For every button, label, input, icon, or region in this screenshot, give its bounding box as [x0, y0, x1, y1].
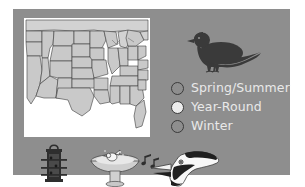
singing-bird-head-icon: [141, 147, 221, 187]
legend-item-year-round[interactable]: Year-Round: [171, 98, 299, 116]
legend-label-winter: Winter: [191, 120, 233, 133]
bird-feeder-icon: [39, 140, 69, 185]
pigeon-silhouette-icon: [181, 21, 265, 77]
legend-swatch-year-round: [171, 101, 184, 114]
legend-item-spring-summer[interactable]: Spring/Summer: [171, 79, 299, 97]
birdbath-icon: [89, 147, 141, 187]
birdbath-illustration: [89, 147, 141, 187]
legend-swatch-spring-summer: [171, 82, 184, 95]
range-map-card[interactable]: [24, 18, 150, 137]
legend-label-year-round: Year-Round: [191, 101, 262, 114]
legend-label-spring-summer: Spring/Summer: [191, 82, 290, 95]
poster-panel: Spring/Summer Year-Round Winter: [13, 9, 290, 175]
range-map-svg: [24, 18, 150, 137]
legend-swatch-winter: [171, 120, 184, 133]
pigeon-illustration: [181, 21, 265, 77]
screenshot-root: Spring/Summer Year-Round Winter: [0, 0, 305, 187]
legend-item-winter[interactable]: Winter: [171, 117, 299, 135]
bird-feeder-illustration: [39, 140, 69, 185]
legend: Spring/Summer Year-Round Winter: [171, 79, 299, 136]
singing-bird-illustration: [141, 147, 221, 187]
